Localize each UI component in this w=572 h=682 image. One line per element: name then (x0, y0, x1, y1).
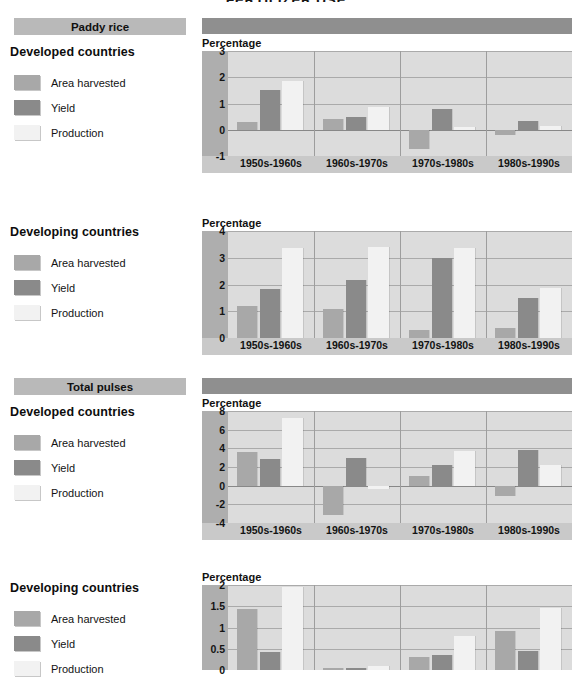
bar (237, 452, 257, 486)
chart-legend: Area harvested Yield Production (14, 430, 196, 505)
x-axis-tick: 1980s-1990s (486, 157, 572, 169)
bar (409, 130, 429, 150)
legend-label: Yield (51, 282, 75, 294)
bar (409, 476, 429, 486)
legend-swatch-production-icon (14, 125, 40, 140)
legend-label: Production (51, 127, 104, 139)
y-axis-tick: 0.5 (203, 643, 225, 655)
group-separator (486, 411, 487, 523)
legend-swatch-area-harvested-icon (14, 611, 40, 626)
legend-item-yield: Yield (14, 455, 196, 480)
chart-pulses-developing: 00.511.52 (202, 585, 572, 670)
block-pulses-developed: Total pulses Developed countries Area ha… (0, 378, 572, 563)
bar (432, 258, 452, 338)
y-axis-tick: 2 (203, 461, 225, 473)
chart-pulses-developed: -4-202468 (202, 411, 572, 523)
block-paddy-developing: Developing countries Area harvested Yiel… (0, 203, 572, 378)
legend-item-area-harvested: Area harvested (14, 250, 196, 275)
country-title: Developing countries (10, 581, 196, 595)
y-axis-tick: 0 (203, 332, 225, 344)
y-axis-title: Percentage (202, 571, 572, 583)
group-separator (486, 585, 487, 670)
chart-legend: Area harvested Yield Production (14, 70, 196, 145)
y-axis-title: Percentage (202, 217, 572, 229)
legend-label: Yield (51, 638, 75, 650)
bar (540, 126, 560, 130)
x-axis-tick: 1950s-1960s (228, 157, 314, 169)
y-axis-tick: 0 (203, 480, 225, 492)
x-axis-tick: 1970s-1980s (400, 524, 486, 536)
legend-swatch-area-harvested-icon (14, 435, 40, 450)
y-axis-tick: 2 (203, 579, 225, 591)
bar (368, 107, 388, 130)
plot-area (228, 231, 572, 338)
legend-swatch-yield-icon (14, 460, 40, 475)
bar (368, 666, 388, 670)
bar (323, 119, 343, 130)
bar (454, 248, 474, 338)
bar (432, 109, 452, 129)
x-axis-tick: 1970s-1980s (400, 157, 486, 169)
group-separator (400, 585, 401, 670)
y-axis-tick: 2 (203, 279, 225, 291)
legend-item-yield: Yield (14, 275, 196, 300)
bar (260, 289, 280, 338)
legend-item-area-harvested: Area harvested (14, 606, 196, 631)
bar (518, 450, 538, 485)
bar (540, 465, 560, 486)
legend-item-production: Production (14, 656, 196, 681)
legend-label: Yield (51, 102, 75, 114)
section-rule (202, 18, 572, 34)
group-separator (314, 231, 315, 338)
x-axis-tick: 1980s-1990s (486, 524, 572, 536)
bar (282, 248, 302, 338)
y-axis-tick: 3 (203, 45, 225, 57)
legend-item-yield: Yield (14, 95, 196, 120)
y-axis-tick: -2 (203, 498, 225, 510)
bar (237, 609, 257, 670)
y-axis-tick: 1 (203, 305, 225, 317)
bar (282, 418, 302, 486)
bar (495, 328, 515, 338)
y-axis-strip: 01234 (202, 231, 228, 338)
y-axis-tick: 4 (203, 442, 225, 454)
legend-label: Production (51, 307, 104, 319)
chart-legend: Area harvested Yield Production (14, 606, 196, 681)
legend-item-production: Production (14, 300, 196, 325)
block-paddy-developed: Paddy rice Developed countries Area harv… (0, 18, 572, 203)
y-axis-strip: -10123 (202, 51, 228, 156)
bar (540, 288, 560, 338)
legend-swatch-production-icon (14, 305, 40, 320)
legend-item-area-harvested: Area harvested (14, 70, 196, 95)
chart-legend: Area harvested Yield Production (14, 250, 196, 325)
y-axis-title: Percentage (202, 397, 572, 409)
bar (260, 652, 280, 670)
legend-label: Area harvested (51, 613, 126, 625)
y-axis-tick: -1 (203, 150, 225, 162)
bar (237, 122, 257, 130)
bar (346, 117, 366, 129)
legend-swatch-area-harvested-icon (14, 255, 40, 270)
bar (282, 587, 302, 670)
x-axis-tick: 1970s-1980s (400, 339, 486, 351)
bar (518, 651, 538, 670)
group-separator (486, 51, 487, 156)
legend-swatch-production-icon (14, 661, 40, 676)
legend-label: Area harvested (51, 257, 126, 269)
x-axis-tick: 1950s-1960s (228, 339, 314, 351)
legend-item-area-harvested: Area harvested (14, 430, 196, 455)
bar (346, 280, 366, 338)
bar (368, 247, 388, 338)
bar (454, 636, 474, 670)
bar (237, 306, 257, 338)
bar (346, 668, 366, 670)
y-axis-strip: 00.511.52 (202, 585, 228, 670)
bar (495, 130, 515, 135)
block-pulses-developing: Developing countries Area harvested Yiel… (0, 563, 572, 682)
bar (260, 90, 280, 129)
plot-area (228, 51, 572, 156)
bar (323, 668, 343, 670)
legend-label: Yield (51, 462, 75, 474)
country-title: Developing countries (10, 225, 196, 239)
y-axis-tick: 8 (203, 405, 225, 417)
